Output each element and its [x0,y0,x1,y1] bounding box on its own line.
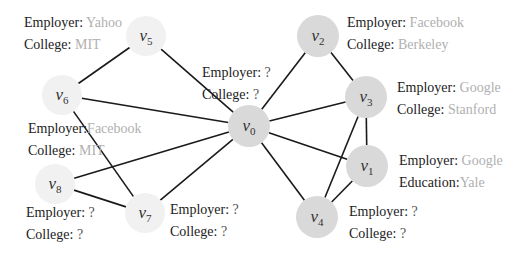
employer-value: Yahoo [86,15,122,30]
college-key: College: [202,87,249,102]
node-label: v [242,116,250,136]
node-label: v [359,87,367,107]
edge-v0-v4 [262,143,305,200]
node-v2: v2 [297,15,339,57]
node-subscript: 5 [147,35,153,47]
education-key: Education: [399,175,460,190]
node-label: v [138,203,146,223]
node-v8: v8 [35,164,75,204]
employer-key: Employer: [170,202,229,217]
node-subscript: 8 [56,183,62,195]
node-subscript: 7 [146,212,152,224]
node-label: v [139,26,147,46]
node-subscript: 3 [367,96,373,108]
node-subscript: 4 [318,216,324,228]
node-subscript: 1 [368,165,374,177]
node-v5: v5 [126,16,166,56]
node-label: v [310,207,318,227]
node-v6: v6 [42,75,82,115]
social-graph-diagram: v0 v1 v2 v3 v4 v5 v6 v7 v8 Employer: Yah… [0,0,520,254]
employer-key: Employer: [399,153,458,168]
employer-key: Employer: [28,121,87,136]
college-value: MIT [75,37,101,52]
college-value: ? [400,226,406,241]
college-value: ? [253,87,259,102]
college-value: ? [221,224,227,239]
employer-value: ? [265,65,271,80]
label-v2: Employer: Facebook College: Berkeley [347,12,464,56]
node-v7: v7 [125,193,165,233]
node-v3: v3 [345,76,387,118]
employer-value: Google [462,153,503,168]
college-value: MIT [79,143,105,158]
employer-value: ? [89,205,95,220]
college-key: College: [26,227,73,242]
employer-key: Employer: [26,205,85,220]
employer-key: Employer: [347,15,406,30]
employer-key: Employer: [349,204,408,219]
college-key: College: [349,226,396,241]
label-v3: Employer: Google College: Stanford [397,77,501,121]
edge-v2-v3 [331,53,353,81]
node-label: v [48,174,56,194]
label-v1: Employer: Google Education:Yale [399,150,503,194]
edge-v0-v3 [269,102,345,121]
label-v8: Employer: ? College: ? [26,202,95,246]
node-subscript: 0 [250,125,256,137]
employer-key: Employer: [397,80,456,95]
node-subscript: 6 [63,94,69,106]
node-v4: v4 [296,196,338,238]
employer-value: Google [460,80,501,95]
node-label: v [55,85,63,105]
edge-v1-v4 [332,181,353,202]
node-label: v [360,156,368,176]
node-label: v [311,26,319,46]
college-key: College: [397,102,444,117]
college-key: College: [28,143,75,158]
label-v5: Employer: Yahoo College: MIT [24,12,122,56]
employer-value: Facebook [410,15,464,30]
education-value: Yale [460,175,485,190]
employer-key: Employer: [202,65,261,80]
employer-value: Facebook [87,121,141,136]
label-v6: Employer:Facebook College: MIT [28,118,142,162]
label-v7: Employer: ? College: ? [170,199,239,243]
employer-value: ? [233,202,239,217]
employer-value: ? [412,204,418,219]
node-v1: v1 [346,145,388,187]
label-v4: Employer: ? College: ? [349,201,418,245]
college-key: College: [24,37,71,52]
edge-v0-v1 [269,133,347,160]
label-v0: Employer: ? College: ? [202,62,271,106]
college-key: College: [170,224,217,239]
college-key: College: [347,37,394,52]
college-value: Berkeley [398,37,449,52]
node-v0: v0 [228,105,270,147]
college-value: ? [77,227,83,242]
node-subscript: 2 [319,35,325,47]
employer-key: Employer: [24,15,83,30]
college-value: Stanford [448,102,496,117]
